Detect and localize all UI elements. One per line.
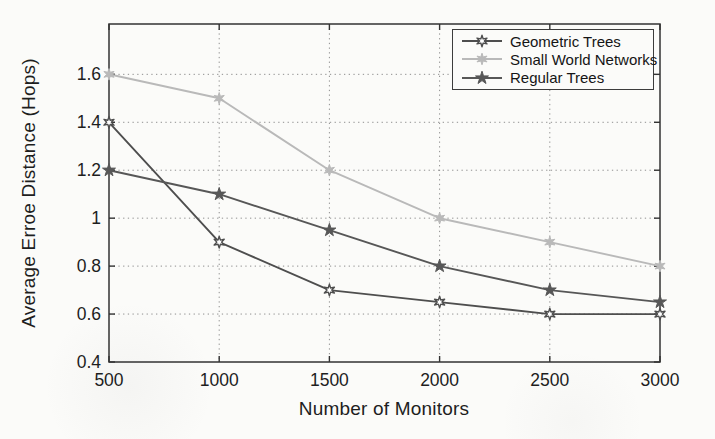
svg-text:3000: 3000 xyxy=(641,370,680,390)
legend-marker-small-world-networks-icon xyxy=(461,51,503,67)
x-axis-label: Number of Monitors xyxy=(299,398,469,420)
svg-text:500: 500 xyxy=(94,370,123,390)
chart-figure: 500100015002000250030000.40.60.811.21.41… xyxy=(0,0,715,439)
legend: Geometric Trees Small World Networks Reg… xyxy=(452,29,654,90)
svg-text:0.8: 0.8 xyxy=(77,256,101,276)
legend-item-geometric-trees: Geometric Trees xyxy=(461,32,653,50)
svg-text:2500: 2500 xyxy=(530,370,569,390)
svg-text:1500: 1500 xyxy=(310,370,349,390)
svg-text:1.2: 1.2 xyxy=(77,160,101,180)
legend-item-regular-trees: Regular Trees xyxy=(461,69,653,87)
legend-marker-geometric-trees-icon xyxy=(461,33,503,49)
y-axis-label: Average Erroe Distance (Hops) xyxy=(18,58,40,327)
svg-text:0.6: 0.6 xyxy=(77,304,101,324)
legend-label-small-world-networks: Small World Networks xyxy=(510,51,657,68)
svg-text:1: 1 xyxy=(91,208,101,228)
legend-label-geometric-trees: Geometric Trees xyxy=(510,33,621,50)
svg-text:1.6: 1.6 xyxy=(77,64,101,84)
svg-text:0.4: 0.4 xyxy=(77,352,102,372)
legend-label-regular-trees: Regular Trees xyxy=(510,69,604,86)
svg-text:1.4: 1.4 xyxy=(77,112,102,132)
svg-text:2000: 2000 xyxy=(420,370,459,390)
legend-item-small-world-networks: Small World Networks xyxy=(461,50,653,68)
legend-marker-regular-trees-icon xyxy=(461,70,503,86)
svg-text:1000: 1000 xyxy=(200,370,239,390)
